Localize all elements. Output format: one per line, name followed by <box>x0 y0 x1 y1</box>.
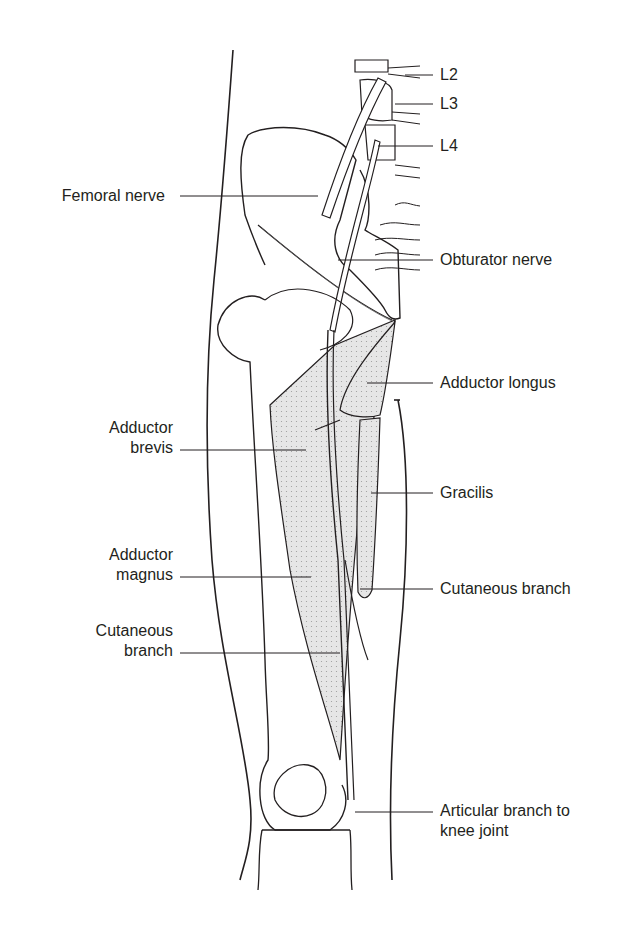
skin-outline-right <box>390 400 406 880</box>
articular-branch-line1: Articular branch to <box>440 801 570 821</box>
patella <box>274 765 326 817</box>
adductor-magnus-line2: magnus <box>109 565 173 585</box>
label-articular-branch: Articular branch to knee joint <box>440 801 570 841</box>
label-femoral-nerve: Femoral nerve <box>62 186 165 206</box>
label-l4: L4 <box>440 136 458 156</box>
label-adductor-brevis: Adductor brevis <box>109 418 173 458</box>
inguinal-ligament <box>258 225 392 320</box>
label-obturator-nerve: Obturator nerve <box>440 250 552 270</box>
label-cutaneous-branch-left: Cutaneous branch <box>96 621 173 661</box>
cutaneous-branch-line2: branch <box>96 641 173 661</box>
label-l2: L2 <box>440 65 458 85</box>
adductor-magnus-line1: Adductor <box>109 545 173 565</box>
articular-branch-line2: knee joint <box>440 821 570 841</box>
gracilis <box>357 418 380 598</box>
label-cutaneous-branch-right: Cutaneous branch <box>440 579 571 599</box>
label-adductor-magnus: Adductor magnus <box>109 545 173 585</box>
adductor-brevis-line1: Adductor <box>109 418 173 438</box>
anatomy-figure: L2 L3 L4 Obturator nerve Adductor longus… <box>0 0 639 928</box>
label-adductor-longus: Adductor longus <box>440 373 556 393</box>
label-l3: L3 <box>440 94 458 114</box>
adductor-brevis-line2: brevis <box>109 438 173 458</box>
tibia <box>258 830 352 890</box>
skin-outline-left <box>207 50 251 880</box>
cutaneous-branch-line1: Cutaneous <box>96 621 173 641</box>
label-gracilis: Gracilis <box>440 483 493 503</box>
thigh-illustration <box>0 0 639 928</box>
